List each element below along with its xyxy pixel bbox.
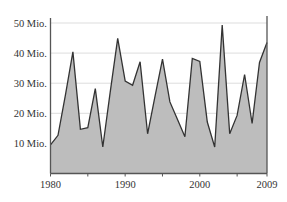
x-tick-label: 1990 [115,179,136,190]
x-tick-label: 2009 [257,179,278,190]
y-tick-label: 40 Mio. [14,48,47,59]
area-fill [51,25,268,173]
y-tick-label: 30 Mio. [14,78,47,89]
area-chart: 10 Mio.20 Mio.30 Mio.40 Mio.50 Mio. 1980… [0,0,287,202]
y-tick-label: 50 Mio. [14,18,47,29]
x-tick-label: 1980 [40,179,61,190]
y-axis-labels: 10 Mio.20 Mio.30 Mio.40 Mio.50 Mio. [14,18,47,149]
y-tick-label: 20 Mio. [14,108,47,119]
x-tick-label: 2000 [189,179,210,190]
x-axis-labels: 1980199020002009 [40,179,278,190]
y-tick-label: 10 Mio. [14,138,47,149]
